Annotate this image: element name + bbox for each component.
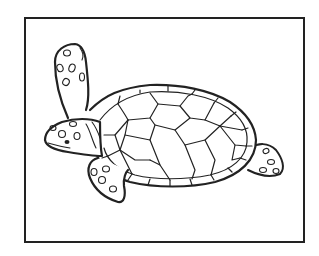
turtle-eye bbox=[65, 140, 70, 144]
front-left-flipper bbox=[55, 44, 88, 118]
turtle-head bbox=[45, 119, 102, 156]
sea-turtle-illustration bbox=[0, 0, 319, 256]
